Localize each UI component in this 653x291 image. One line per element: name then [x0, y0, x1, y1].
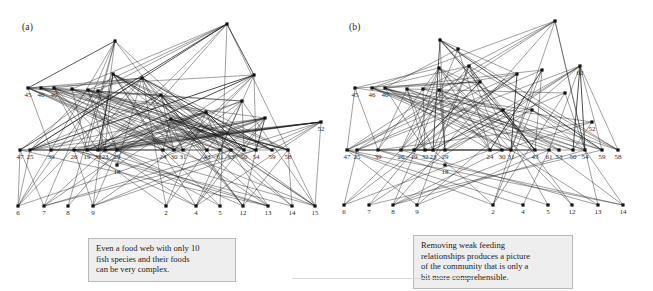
food-web-node[interactable] — [286, 148, 289, 151]
food-web-node[interactable] — [478, 80, 481, 83]
food-web-node[interactable] — [290, 204, 293, 207]
food-web-node[interactable] — [52, 86, 55, 89]
food-web-node[interactable] — [571, 148, 574, 151]
food-web-node[interactable] — [252, 73, 255, 76]
food-web-node[interactable] — [621, 203, 624, 206]
food-web-node[interactable] — [86, 88, 89, 91]
food-web-node[interactable] — [557, 148, 560, 151]
food-web-node[interactable] — [596, 203, 599, 206]
food-web-node[interactable] — [28, 148, 31, 151]
food-web-node[interactable] — [164, 204, 167, 207]
food-web-node[interactable] — [194, 204, 197, 207]
food-web-node[interactable] — [161, 148, 164, 151]
food-web-node[interactable] — [546, 203, 549, 206]
food-web-node[interactable] — [500, 148, 503, 151]
food-web-node[interactable] — [563, 91, 566, 94]
food-web-node[interactable] — [590, 120, 593, 123]
food-web-node[interactable] — [438, 38, 441, 41]
food-web-node[interactable] — [72, 148, 75, 151]
food-web-node[interactable] — [491, 203, 494, 206]
food-web-node[interactable] — [553, 19, 556, 22]
food-web-node[interactable] — [415, 203, 418, 206]
food-web-node[interactable] — [115, 148, 118, 151]
food-web-node[interactable] — [509, 148, 512, 151]
food-web-node[interactable] — [501, 108, 504, 111]
food-web-node[interactable] — [547, 148, 550, 151]
food-web-node[interactable] — [578, 64, 581, 67]
food-web-node[interactable] — [423, 148, 426, 151]
food-web-node[interactable] — [103, 148, 106, 151]
food-web-node[interactable] — [39, 86, 42, 89]
food-web-node[interactable] — [70, 87, 73, 90]
food-web-node[interactable] — [367, 203, 370, 206]
food-web-edge — [41, 88, 220, 150]
food-web-node[interactable] — [540, 68, 543, 71]
food-web-node[interactable] — [437, 88, 440, 91]
food-web-node[interactable] — [467, 64, 470, 67]
food-web-node[interactable] — [583, 148, 586, 151]
food-web-node[interactable] — [405, 87, 408, 90]
food-web-node[interactable] — [242, 148, 245, 151]
food-web-node[interactable] — [254, 148, 257, 151]
food-web-node[interactable] — [225, 22, 228, 25]
food-web-node[interactable] — [391, 203, 394, 206]
food-web-node[interactable] — [159, 93, 162, 96]
food-web-node[interactable] — [169, 117, 172, 120]
food-web-node[interactable] — [488, 148, 491, 151]
food-web-node[interactable] — [533, 148, 536, 151]
food-web-node[interactable] — [49, 148, 52, 151]
food-web-node[interactable] — [42, 204, 45, 207]
food-web-node[interactable] — [342, 203, 345, 206]
food-web-node[interactable] — [355, 148, 358, 151]
food-web-node[interactable] — [181, 148, 184, 151]
food-web-node[interactable] — [111, 72, 114, 75]
food-web-node[interactable] — [399, 148, 402, 151]
food-web-node[interactable] — [85, 148, 88, 151]
food-web-node[interactable] — [172, 148, 175, 151]
food-web-node[interactable] — [241, 204, 244, 207]
food-web-node[interactable] — [443, 163, 446, 166]
food-web-node[interactable] — [370, 86, 373, 89]
food-web-node[interactable] — [443, 148, 446, 151]
food-web-node[interactable] — [218, 204, 221, 207]
food-web-node[interactable] — [26, 86, 29, 89]
food-web-node[interactable] — [205, 148, 208, 151]
food-web-node[interactable] — [570, 203, 573, 206]
food-web-node[interactable] — [91, 204, 94, 207]
food-web-node[interactable] — [218, 148, 221, 151]
food-web-node[interactable] — [345, 148, 348, 151]
food-web-node[interactable] — [229, 148, 232, 151]
food-web-node[interactable] — [96, 89, 99, 92]
food-web-node[interactable] — [18, 148, 21, 151]
food-web-node[interactable] — [66, 204, 69, 207]
food-web-node[interactable] — [263, 116, 266, 119]
food-web-node[interactable] — [115, 163, 118, 166]
food-web-node[interactable] — [431, 148, 434, 151]
food-web-node[interactable] — [140, 76, 143, 79]
food-web-node[interactable] — [113, 39, 116, 42]
food-web-node[interactable] — [421, 87, 424, 90]
food-web-node[interactable] — [353, 86, 356, 89]
food-web-node[interactable] — [16, 204, 19, 207]
food-web-node-label: 59 — [599, 153, 607, 161]
food-web-node[interactable] — [313, 204, 316, 207]
food-web-node[interactable] — [270, 148, 273, 151]
food-web-node[interactable] — [437, 66, 440, 69]
food-web-node[interactable] — [266, 204, 269, 207]
food-web-node-label: 23 — [430, 153, 438, 161]
food-web-node[interactable] — [376, 148, 379, 151]
food-web-node-label: 18 — [442, 168, 450, 176]
food-web-node[interactable] — [319, 120, 322, 123]
food-web-node-label: 9 — [91, 209, 95, 217]
food-web-node[interactable] — [96, 148, 99, 151]
food-web-node[interactable] — [383, 86, 386, 89]
food-web-node[interactable] — [521, 203, 524, 206]
food-web-node[interactable] — [240, 99, 243, 102]
food-web-node[interactable] — [515, 72, 518, 75]
food-web-node[interactable] — [204, 110, 207, 113]
food-web-node[interactable] — [616, 148, 619, 151]
food-web-node[interactable] — [412, 148, 415, 151]
food-web-node[interactable] — [456, 47, 459, 50]
food-web-node[interactable] — [530, 108, 533, 111]
food-web-node[interactable] — [600, 148, 603, 151]
